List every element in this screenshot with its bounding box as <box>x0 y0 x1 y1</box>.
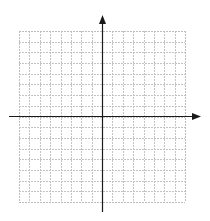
coordinate-plane <box>0 0 210 221</box>
background <box>0 0 210 221</box>
